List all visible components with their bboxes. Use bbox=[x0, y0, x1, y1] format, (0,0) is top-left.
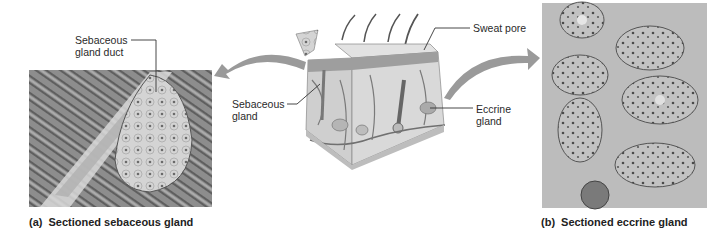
eccrine-micrograph bbox=[542, 2, 707, 209]
caption-b-tag: (b) bbox=[541, 216, 555, 228]
caption-a: (a)Sectioned sebaceous gland bbox=[29, 216, 193, 228]
sweat-pore-label: Sweat pore bbox=[473, 22, 526, 34]
eccrine-gland-label: Eccrine gland bbox=[476, 103, 511, 127]
duct-label-line2: gland duct bbox=[75, 46, 128, 58]
sebaceous-micrograph bbox=[29, 70, 212, 207]
left-arrow-icon bbox=[214, 55, 306, 79]
right-arrow-icon bbox=[444, 48, 540, 100]
sebaceous-label-line1: Sebaceous bbox=[232, 98, 285, 110]
sebaceous-duct-label: Sebaceous gland duct bbox=[75, 34, 128, 58]
duct-label-line1: Sebaceous bbox=[75, 34, 128, 46]
eccrine-label-line1: Eccrine bbox=[476, 103, 511, 115]
caption-a-text: Sectioned sebaceous gland bbox=[48, 216, 193, 228]
sebaceous-label-line2: gland bbox=[232, 110, 285, 122]
caption-a-tag: (a) bbox=[29, 216, 42, 228]
eccrine-label-line2: gland bbox=[476, 115, 511, 127]
sebaceous-gland-label: Sebaceous gland bbox=[232, 98, 285, 122]
caption-b-text: Sectioned eccrine gland bbox=[561, 216, 688, 228]
skin-block-diagram bbox=[296, 14, 445, 170]
caption-b: (b)Sectioned eccrine gland bbox=[541, 216, 688, 228]
